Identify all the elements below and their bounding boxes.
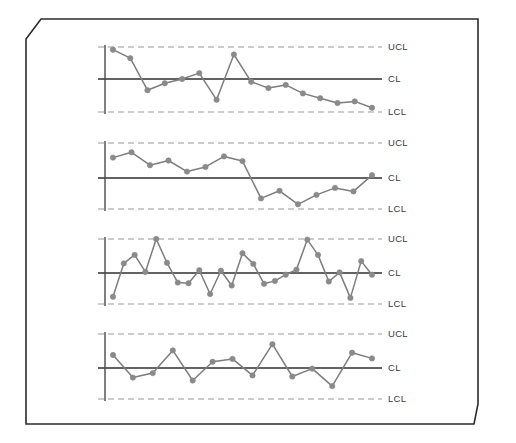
data-point-marker bbox=[332, 185, 337, 190]
chart-1-downward-trend: UCLCLLCL bbox=[98, 41, 408, 117]
data-point-marker bbox=[315, 252, 320, 257]
data-point-marker bbox=[154, 236, 159, 241]
data-series-line bbox=[113, 344, 372, 386]
data-point-marker bbox=[349, 350, 354, 355]
data-point-marker bbox=[270, 342, 275, 347]
lcl-label: LCL bbox=[388, 298, 406, 309]
data-point-marker bbox=[203, 164, 208, 169]
data-point-marker bbox=[121, 261, 126, 266]
data-point-marker bbox=[261, 281, 266, 286]
chart-2-level-shift: UCLCLLCL bbox=[98, 137, 408, 214]
data-point-marker bbox=[129, 150, 134, 155]
data-point-marker bbox=[231, 52, 236, 57]
chart-3-high-variation: UCLCLLCL bbox=[98, 233, 408, 309]
data-point-marker bbox=[210, 359, 215, 364]
data-point-marker bbox=[221, 154, 226, 159]
data-point-marker bbox=[318, 96, 323, 101]
data-point-marker bbox=[369, 272, 374, 277]
data-point-marker bbox=[110, 294, 115, 299]
data-point-marker bbox=[145, 88, 150, 93]
data-point-marker bbox=[110, 352, 115, 357]
data-point-marker bbox=[250, 373, 255, 378]
data-point-marker bbox=[335, 100, 340, 105]
data-point-marker bbox=[369, 105, 374, 110]
data-point-marker bbox=[170, 348, 175, 353]
data-point-marker bbox=[337, 270, 342, 275]
data-point-marker bbox=[251, 261, 256, 266]
data-point-marker bbox=[266, 85, 271, 90]
data-point-marker bbox=[272, 278, 277, 283]
data-series-line bbox=[113, 239, 372, 298]
data-point-marker bbox=[369, 356, 374, 361]
data-point-marker bbox=[218, 268, 223, 273]
data-point-marker bbox=[300, 91, 305, 96]
data-point-marker bbox=[310, 366, 315, 371]
data-point-marker bbox=[166, 158, 171, 163]
lcl-label: LCL bbox=[388, 106, 406, 117]
data-point-marker bbox=[110, 155, 115, 160]
data-point-marker bbox=[351, 189, 356, 194]
lcl-label: LCL bbox=[388, 203, 406, 214]
data-point-marker bbox=[314, 192, 319, 197]
control-charts-plot-area: UCLCLLCLUCLCLLCLUCLCLLCLUCLCLLCL bbox=[0, 0, 516, 443]
data-point-marker bbox=[197, 268, 202, 273]
data-point-marker bbox=[240, 158, 245, 163]
data-point-marker bbox=[240, 251, 245, 256]
data-point-marker bbox=[197, 70, 202, 75]
data-point-marker bbox=[186, 281, 191, 286]
data-point-marker bbox=[179, 76, 184, 81]
data-point-marker bbox=[230, 356, 235, 361]
data-point-marker bbox=[330, 383, 335, 388]
ucl-label: UCL bbox=[388, 328, 408, 339]
chart-4-in-control: UCLCLLCL bbox=[98, 328, 408, 404]
data-point-marker bbox=[290, 374, 295, 379]
data-point-marker bbox=[248, 79, 253, 84]
data-point-marker bbox=[214, 97, 219, 102]
data-point-marker bbox=[295, 202, 300, 207]
data-point-marker bbox=[359, 258, 364, 263]
data-point-marker bbox=[128, 56, 133, 61]
ucl-label: UCL bbox=[388, 41, 408, 52]
data-point-marker bbox=[277, 188, 282, 193]
data-point-marker bbox=[110, 47, 115, 52]
ucl-label: UCL bbox=[388, 233, 408, 244]
data-point-marker bbox=[258, 196, 263, 201]
data-point-marker bbox=[369, 172, 374, 177]
data-point-marker bbox=[305, 237, 310, 242]
data-point-marker bbox=[283, 82, 288, 87]
data-point-marker bbox=[130, 375, 135, 380]
data-point-marker bbox=[150, 370, 155, 375]
cl-label: CL bbox=[388, 73, 401, 84]
cl-label: CL bbox=[388, 172, 401, 183]
data-point-marker bbox=[294, 267, 299, 272]
ucl-label: UCL bbox=[388, 137, 408, 148]
data-point-marker bbox=[190, 378, 195, 383]
data-point-marker bbox=[283, 272, 288, 277]
data-point-marker bbox=[175, 280, 180, 285]
data-point-marker bbox=[143, 269, 148, 274]
control-charts-figure: UCLCLLCLUCLCLLCLUCLCLLCLUCLCLLCL bbox=[0, 0, 516, 443]
data-point-marker bbox=[132, 252, 137, 257]
data-point-marker bbox=[352, 99, 357, 104]
data-point-marker bbox=[207, 291, 212, 296]
cl-label: CL bbox=[388, 362, 401, 373]
cl-label: CL bbox=[388, 267, 401, 278]
lcl-label: LCL bbox=[388, 393, 406, 404]
data-point-marker bbox=[164, 260, 169, 265]
data-point-marker bbox=[326, 279, 331, 284]
data-point-marker bbox=[229, 283, 234, 288]
data-point-marker bbox=[147, 163, 152, 168]
charts-root: UCLCLLCLUCLCLLCLUCLCLLCLUCLCLLCL bbox=[98, 41, 408, 404]
data-point-marker bbox=[348, 295, 353, 300]
data-point-marker bbox=[162, 81, 167, 86]
data-point-marker bbox=[184, 169, 189, 174]
